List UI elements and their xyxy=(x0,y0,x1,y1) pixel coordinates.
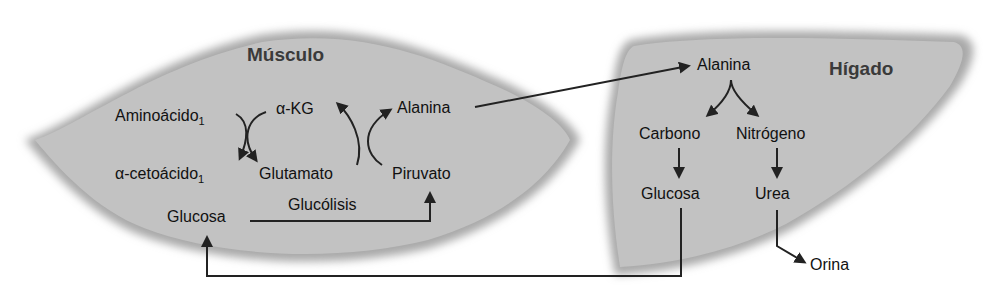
aminoacid-text: Aminoácido xyxy=(115,107,199,124)
liver-shape xyxy=(605,31,973,275)
label-carbon: Carbono xyxy=(639,126,700,142)
aminoacid-subscript: 1 xyxy=(199,115,205,127)
label-glucose-muscle: Glucosa xyxy=(167,209,226,225)
ketoacid-text: α-cetoácido xyxy=(115,165,198,182)
label-glycolysis: Glucólisis xyxy=(288,197,356,213)
liver-title: Hígado xyxy=(829,59,893,78)
label-glutamate: Glutamato xyxy=(259,166,333,182)
muscle-title: Músculo xyxy=(247,45,324,64)
label-glucose-liver: Glucosa xyxy=(641,186,700,202)
label-nitrogen: Nitrógeno xyxy=(736,126,805,142)
label-ketoacid: α-cetoácido1 xyxy=(115,166,204,185)
ketoacid-subscript: 1 xyxy=(198,173,204,185)
label-urea: Urea xyxy=(755,186,790,202)
label-pyruvate: Piruvato xyxy=(392,166,451,182)
label-alanine-muscle: Alanina xyxy=(397,100,450,116)
label-aminoacid: Aminoácido1 xyxy=(115,108,205,127)
muscle-shape xyxy=(25,31,580,262)
label-alanine-liver: Alanina xyxy=(697,57,750,73)
diagram-canvas xyxy=(0,0,994,292)
label-urine: Orina xyxy=(810,257,849,273)
label-akg: α-KG xyxy=(276,101,314,117)
